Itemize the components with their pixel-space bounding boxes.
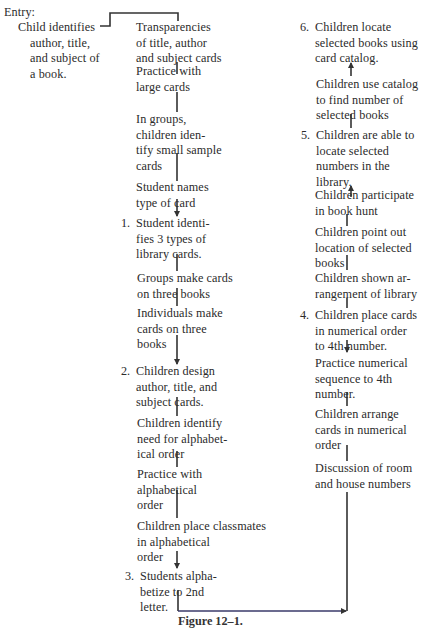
flow-step: Children place classmatesin alphabetical… [137, 519, 266, 566]
flow-step: Practice withlarge cards [136, 64, 201, 95]
flow-step-line: Children place classmates [137, 519, 266, 535]
flow-step-line: in book hunt [315, 204, 414, 220]
flow-step-line: betize to 2nd [140, 585, 217, 601]
flow-step-line: library cards. [136, 247, 210, 263]
flow-step-line: and house numbers [315, 477, 412, 493]
flow-step-line: sequence to 4th [315, 372, 408, 388]
flow-step-line: cards [136, 159, 222, 175]
step-number: 6. [300, 20, 309, 36]
flow-step: Practice withalphabeticalorder [137, 467, 202, 514]
flow-step-line: Practice with [137, 467, 202, 483]
flow-step-line: in numerical order [315, 324, 417, 340]
flow-step-line: books [137, 337, 223, 353]
flow-step-line: to find number of [316, 93, 418, 109]
step-number: 1. [121, 216, 130, 232]
entry-objective: Child identifies author, title, and subj… [18, 20, 100, 82]
flow-step-line: children iden- [136, 128, 222, 144]
flow-step-line: locate selected [316, 144, 414, 160]
flow-step-line: large cards [136, 80, 201, 96]
flow-step-line: Discussion of room [315, 461, 412, 477]
flow-step-line: order [137, 498, 202, 514]
entry-label: Entry: [4, 5, 35, 21]
flow-step: Children locateselected books usingcard … [315, 20, 418, 67]
flow-step: Children shown ar-rangement of library [315, 271, 417, 302]
flow-step-line: Transparencies [136, 20, 222, 36]
flow-step-line: Students alpha- [140, 569, 217, 585]
flow-step-line: Student names [136, 180, 209, 196]
flow-step-line: order [137, 550, 266, 566]
step-number: 4. [300, 308, 309, 324]
flow-step-line: of title, author [136, 36, 222, 52]
flow-step-line: need for alphabet- [137, 432, 227, 448]
flow-step-line: cards in numerical [315, 423, 407, 439]
flow-step: In groups,children iden-tify small sampl… [136, 112, 222, 174]
flow-step-line: number. [315, 387, 408, 403]
flow-step: Student identi-fies 3 types oflibrary ca… [136, 216, 210, 263]
flow-step-line: location of selected [315, 241, 412, 257]
flow-step-line: cards on three [137, 322, 223, 338]
flow-step-line: Children place cards [315, 308, 417, 324]
flow-step-line: Children identify [137, 416, 227, 432]
flow-step-line: numbers in the [316, 159, 414, 175]
flow-step: Children point outlocation of selectedbo… [315, 225, 412, 272]
step-number: 5. [301, 128, 310, 144]
flow-step-line: in alphabetical [137, 535, 266, 551]
flow-step-line: Student identi- [136, 216, 210, 232]
flow-step: Children identifyneed for alphabet-ical … [137, 416, 227, 463]
flow-step-line: card catalog. [315, 51, 418, 67]
step-number: 2. [121, 364, 130, 380]
flow-step: Children designauthor, title, andsubject… [136, 364, 217, 411]
flow-step-line: Children design [136, 364, 217, 380]
flow-step-line: Children locate [315, 20, 418, 36]
flow-step: Children are able tolocate selectednumbe… [316, 128, 414, 190]
flow-step-line: Practice with [136, 64, 201, 80]
flow-step: Children place cardsin numerical orderto… [315, 308, 417, 355]
flow-step-line: order [315, 438, 407, 454]
flow-step-line: on three books [137, 287, 233, 303]
flow-step-line: alphabetical [137, 483, 202, 499]
flow-step-line: Children point out [315, 225, 412, 241]
flow-step-line: subject cards. [136, 395, 217, 411]
flow-step-line: In groups, [136, 112, 222, 128]
flow-step-line: author, title, and [136, 380, 217, 396]
flow-step-line: ical order [137, 447, 227, 463]
flow-step-line: Practice numerical [315, 356, 408, 372]
flow-step-line: Children are able to [316, 128, 414, 144]
flow-step: Children participatein book hunt [315, 188, 414, 219]
flow-step: Children use catalogto find number ofsel… [316, 77, 418, 124]
step-number: 3. [125, 569, 134, 585]
flow-step-line: selected books [316, 108, 418, 124]
flow-step: Transparenciesof title, authorand subjec… [136, 20, 222, 67]
flow-step-line: tify small sample [136, 143, 222, 159]
flow-step: Children arrangecards in numericalorder [315, 407, 407, 454]
flow-step-line: Children participate [315, 188, 414, 204]
flow-step-line: type of card [136, 196, 209, 212]
flow-step: Practice numericalsequence to 4thnumber. [315, 356, 408, 403]
flow-step: Individuals makecards on threebooks [137, 306, 223, 353]
flow-step-line: Children arrange [315, 407, 407, 423]
flow-step-line: Children shown ar- [315, 271, 417, 287]
flow-step: Groups make cardson three books [137, 271, 233, 302]
flow-step: Students alpha-betize to 2ndletter. [140, 569, 217, 616]
flow-step-line: to 4th number. [315, 339, 417, 355]
flow-step: Discussion of roomand house numbers [315, 461, 412, 492]
flow-step-line: selected books using [315, 36, 418, 52]
figure-caption: Figure 12–1. [178, 614, 243, 629]
flow-step-line: books [315, 256, 412, 272]
flow-step-line: fies 3 types of [136, 232, 210, 248]
flow-step-line: rangement of library [315, 287, 417, 303]
flow-step-line: Children use catalog [316, 77, 418, 93]
flow-step-line: Groups make cards [137, 271, 233, 287]
flow-step-line: Individuals make [137, 306, 223, 322]
flow-step: Student namestype of card [136, 180, 209, 211]
